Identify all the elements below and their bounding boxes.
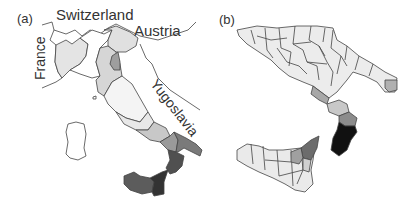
district-calabria-south	[331, 122, 357, 156]
border-yugoslavia	[140, 44, 200, 110]
map-panel-a: (a) Switzerland Austria France Yugoslavi…	[0, 0, 207, 211]
district-salento	[385, 80, 397, 92]
region-apulia	[174, 132, 202, 156]
italy-regions-map	[0, 0, 207, 211]
region-calabria	[166, 150, 184, 174]
island-elba	[93, 96, 96, 99]
southern-italy-districts-map	[207, 0, 414, 211]
district-sicily-ne	[301, 136, 319, 160]
map-panel-b: (b)	[207, 0, 414, 211]
island-sardinia	[66, 122, 86, 160]
region-sicily-west	[124, 172, 154, 194]
